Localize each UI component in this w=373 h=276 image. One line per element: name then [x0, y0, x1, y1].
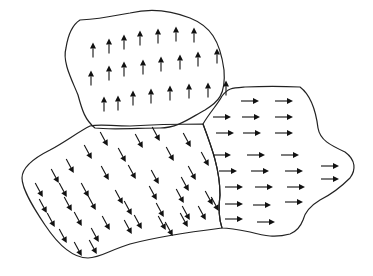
arrow-up-icon [130, 91, 136, 106]
arrow-down-right-icon [59, 229, 67, 243]
arrow-down-right-icon [156, 203, 164, 217]
arrow-down-right-icon [134, 215, 142, 229]
arrow-up-icon [88, 71, 94, 86]
domain-boundary [22, 124, 222, 258]
arrow-down-right-icon [101, 166, 109, 180]
arrow-down-right-icon [198, 206, 206, 220]
arrow-up-icon [195, 52, 201, 67]
arrow-right-icon [251, 168, 269, 174]
arrow-down-right-icon [35, 183, 43, 197]
arrow-up-icon [177, 55, 183, 70]
arrow-right-icon [216, 130, 234, 136]
arrow-right-icon [255, 184, 273, 190]
arrow-right-icon [321, 176, 339, 182]
arrow-down-right-icon [149, 186, 157, 200]
arrow-down-right-icon [102, 216, 110, 230]
arrow-down-right-icon [51, 169, 59, 183]
arrow-right-icon [219, 168, 237, 174]
arrow-down-right-icon [74, 242, 82, 256]
arrow-down-right-icon [176, 189, 184, 203]
arrow-right-icon [285, 199, 303, 205]
arrow-down-right-icon [166, 147, 174, 161]
arrow-down-right-icon [118, 148, 126, 162]
domain-boundary [65, 10, 224, 129]
arrow-right-icon [247, 152, 265, 158]
arrow-up-icon [140, 60, 146, 75]
arrow-up-icon [121, 62, 127, 77]
arrow-up-icon [148, 89, 154, 104]
arrow-down-right-icon [183, 133, 191, 147]
arrow-right-icon [253, 202, 271, 208]
arrow-up-icon [155, 29, 161, 44]
arrow-down-right-icon [89, 240, 97, 254]
arrow-right-icon [275, 130, 293, 136]
arrow-up-icon [106, 39, 112, 54]
arrow-right-icon [242, 114, 260, 120]
arrow-down-right-icon [152, 127, 160, 141]
arrow-right-icon [281, 152, 299, 158]
arrow-right-icon [275, 114, 293, 120]
arrow-down-right-icon [188, 166, 196, 180]
arrow-right-icon [225, 201, 243, 207]
arrow-down-right-icon [124, 220, 132, 234]
arrow-up-icon [214, 49, 220, 64]
arrow-down-right-icon [115, 190, 123, 204]
arrow-right-icon [213, 152, 231, 158]
arrow-right-icon [225, 184, 243, 190]
arrow-down-right-icon [91, 228, 99, 242]
arrow-up-icon [205, 83, 211, 98]
arrow-down-right-icon [74, 212, 82, 226]
arrow-up-icon [106, 66, 112, 81]
arrow-down-right-icon [39, 199, 47, 213]
arrow-down-right-icon [66, 159, 74, 173]
arrow-up-icon [191, 28, 197, 43]
arrow-up-icon [90, 43, 96, 58]
arrow-down-right-icon [59, 183, 67, 197]
arrow-right-icon [321, 163, 339, 169]
arrow-up-icon [173, 27, 179, 42]
arrow-right-icon [243, 130, 261, 136]
arrow-down-right-icon [158, 216, 166, 230]
arrow-down-right-icon [100, 132, 108, 146]
arrow-down-right-icon [181, 177, 189, 191]
domain-diagonal [22, 124, 222, 258]
arrow-up-icon [121, 35, 127, 50]
arrow-right-icon [213, 114, 231, 120]
arrow-up-icon [115, 96, 121, 111]
arrow-right-icon [275, 98, 293, 104]
arrow-up-icon [186, 84, 192, 99]
domain-up [65, 10, 229, 129]
domain-right [203, 86, 354, 236]
arrow-down-right-icon [81, 183, 89, 197]
domains-layer [22, 10, 354, 258]
arrow-down-right-icon [201, 152, 209, 166]
arrow-right-icon [241, 98, 259, 104]
arrow-down-right-icon [84, 145, 92, 159]
arrow-right-icon [287, 184, 305, 190]
arrow-up-icon [101, 97, 107, 112]
arrow-up-icon [167, 86, 173, 101]
arrow-down-right-icon [128, 165, 136, 179]
domain-boundary [203, 86, 354, 236]
arrow-right-icon [225, 216, 243, 222]
arrow-down-right-icon [64, 197, 72, 211]
arrow-up-icon [137, 31, 143, 46]
arrow-right-icon [257, 219, 275, 225]
arrow-down-right-icon [165, 222, 173, 236]
arrow-down-right-icon [47, 213, 55, 227]
magnetic-domains-diagram [0, 0, 373, 276]
arrow-down-right-icon [124, 201, 132, 215]
arrow-up-icon [158, 57, 164, 72]
arrow-down-right-icon [151, 170, 159, 184]
arrow-right-icon [285, 168, 303, 174]
arrow-down-right-icon [135, 134, 143, 148]
arrow-down-right-icon [88, 196, 96, 210]
